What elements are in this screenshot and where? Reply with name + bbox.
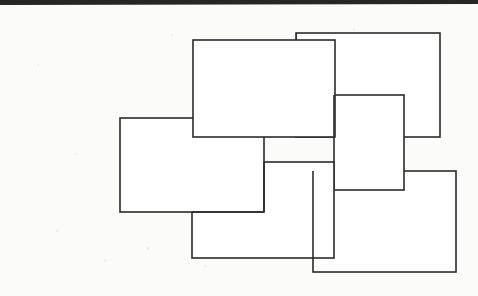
rect-top-center-outline (193, 40, 335, 137)
interlocking-rectangles-figure (0, 0, 478, 296)
rect-middle-right-outline (334, 95, 404, 190)
figure-page (0, 0, 478, 296)
shape-rect-top-center (193, 40, 335, 137)
shape-rect-middle-right (334, 95, 404, 190)
scan-edge-band (0, 0, 478, 5)
